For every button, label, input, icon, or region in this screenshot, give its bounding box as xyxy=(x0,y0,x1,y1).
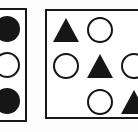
right-panel-cell-r3c3 xyxy=(120,88,138,116)
open-circle-icon xyxy=(121,53,138,79)
left-panel-cell-r3c1 xyxy=(0,87,21,115)
open-circle-icon xyxy=(0,52,20,78)
left-panel-cell-r2c1 xyxy=(0,51,21,79)
right-panel-cell-r2c3 xyxy=(120,52,138,80)
right-panel-cell-r2c1 xyxy=(52,52,80,80)
left-panel xyxy=(0,8,27,122)
filled-triangle-icon xyxy=(120,88,138,116)
right-panel-cell-r3c2 xyxy=(86,88,114,116)
right-panel-cell-r3c1 xyxy=(52,88,80,116)
right-panel-cell-r1c3 xyxy=(120,16,138,44)
left-panel-cell-r1c1 xyxy=(0,15,21,43)
open-circle-icon xyxy=(53,53,79,79)
filled-circle-icon xyxy=(0,88,20,114)
right-panel-cell-r2c2 xyxy=(86,52,114,80)
open-circle-icon xyxy=(87,89,113,115)
filled-triangle-icon xyxy=(52,16,80,44)
right-panel-cell-r1c2 xyxy=(86,16,114,44)
filled-circle-icon xyxy=(0,16,20,42)
open-circle-icon xyxy=(87,17,113,43)
filled-triangle-icon xyxy=(86,52,114,80)
figure-canvas xyxy=(0,0,138,132)
right-panel-cell-r1c1 xyxy=(52,16,80,44)
right-panel xyxy=(45,9,138,119)
